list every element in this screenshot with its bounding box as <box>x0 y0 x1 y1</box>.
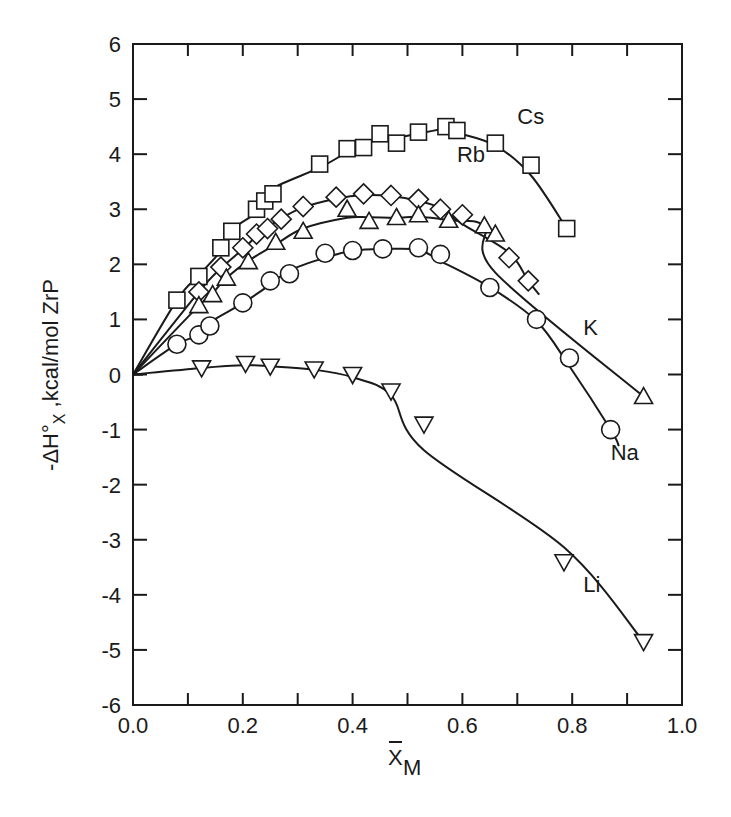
y-axis-title: -ΔH°X ,kcal/mol ZrP <box>38 279 68 471</box>
diamond-marker <box>499 248 519 268</box>
triangle-up-marker <box>409 206 427 222</box>
y-axis-title-rest: ,kcal/mol ZrP <box>38 279 63 413</box>
x-axis-ticks: 0.00.20.40.60.81.0 <box>118 44 698 738</box>
curve-li <box>133 365 644 641</box>
circle-marker <box>481 278 499 296</box>
series-labels: CsRbKNaLi <box>457 104 640 597</box>
svg-text:-ΔH°X ,kcal/mol ZrP: -ΔH°X ,kcal/mol ZrP <box>38 279 68 471</box>
square-marker <box>410 124 426 140</box>
circle-marker <box>316 244 334 262</box>
square-marker <box>372 126 388 142</box>
circle-marker <box>409 239 427 257</box>
data-markers <box>168 119 653 651</box>
plot-border <box>133 44 682 705</box>
circle-marker <box>234 294 252 312</box>
series-label-rb: Rb <box>457 142 485 167</box>
triangle-down-marker <box>382 384 400 400</box>
diamond-marker <box>326 187 346 207</box>
y-tick-label: -6 <box>101 693 121 718</box>
plot-frame <box>133 44 682 705</box>
triangle-down-marker <box>635 635 653 651</box>
x-tick-label: 0.6 <box>447 713 478 738</box>
square-marker <box>559 221 575 237</box>
square-marker <box>449 122 465 138</box>
triangle-up-marker <box>635 388 653 404</box>
circle-marker <box>344 242 362 260</box>
x-tick-label: 0.2 <box>228 713 259 738</box>
y-tick-label: 0 <box>109 363 121 388</box>
triangle-up-marker <box>360 212 378 228</box>
circle-marker <box>602 421 620 439</box>
square-marker <box>356 140 372 156</box>
square-marker <box>169 292 185 308</box>
circle-marker <box>261 272 279 290</box>
square-marker <box>523 157 539 173</box>
y-axis-title-sub: X <box>51 413 68 424</box>
circle-marker <box>168 335 186 353</box>
y-tick-label: 4 <box>109 142 121 167</box>
series-label-cs: Cs <box>517 104 544 129</box>
square-marker <box>265 186 281 202</box>
x-axis-title: X M <box>388 742 421 780</box>
circle-marker <box>431 245 449 263</box>
x-tick-label: 0.4 <box>337 713 368 738</box>
x-axis-title-main: X <box>388 745 403 770</box>
x-tick-label: 1.0 <box>667 713 698 738</box>
y-tick-label: -4 <box>101 583 121 608</box>
circle-marker <box>528 310 546 328</box>
enthalpy-chart: 0.00.20.40.60.81.0 -6-5-4-3-2-10123456 C… <box>0 0 731 817</box>
y-tick-label: 1 <box>109 307 121 332</box>
square-marker <box>213 240 229 256</box>
x-tick-label: 0.8 <box>557 713 588 738</box>
circle-marker <box>374 240 392 258</box>
y-tick-label: 3 <box>109 197 121 222</box>
diamond-marker <box>381 185 401 205</box>
series-label-k: K <box>583 315 598 340</box>
y-tick-label: 2 <box>109 252 121 277</box>
circle-marker <box>560 349 578 367</box>
diamond-marker <box>354 184 374 204</box>
diamond-marker <box>518 271 538 291</box>
triangle-down-marker <box>555 555 573 571</box>
triangle-up-marker <box>475 217 493 233</box>
x-axis-title-sub: M <box>403 755 421 780</box>
series-label-li: Li <box>583 572 600 597</box>
y-axis-title-main: -ΔH° <box>38 424 63 471</box>
y-tick-label: -5 <box>101 638 121 663</box>
circle-marker <box>280 265 298 283</box>
diamond-marker <box>293 196 313 216</box>
square-marker <box>487 135 503 151</box>
y-tick-label: 5 <box>109 87 121 112</box>
y-tick-label: -1 <box>101 418 121 443</box>
y-tick-label: -3 <box>101 528 121 553</box>
triangle-down-marker <box>415 417 433 433</box>
y-tick-label: -2 <box>101 473 121 498</box>
circle-marker <box>201 317 219 335</box>
square-marker <box>389 135 405 151</box>
y-tick-label: 6 <box>109 32 121 57</box>
series-label-na: Na <box>611 440 640 465</box>
square-marker <box>312 156 328 172</box>
square-marker <box>224 223 240 239</box>
square-marker <box>339 141 355 157</box>
x-tick-label: 0.0 <box>118 713 149 738</box>
